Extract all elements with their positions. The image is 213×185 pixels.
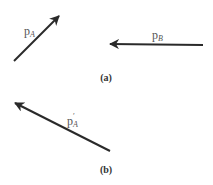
label-pA-prime: pA′: [67, 115, 80, 131]
label-pA-prime-mark: ′: [73, 112, 75, 121]
label-pA-prime-sub: A: [73, 120, 78, 129]
label-pA-sub: A: [30, 30, 35, 39]
vector-pA-arrow-icon: [14, 16, 59, 61]
label-pB-sub: B: [158, 34, 163, 43]
caption-b: (b): [100, 165, 112, 175]
vector-pA-prime-arrow-icon: [15, 103, 110, 151]
caption-a: (a): [100, 73, 112, 83]
label-pA: pA: [24, 25, 35, 41]
label-pB: pB: [152, 29, 163, 45]
